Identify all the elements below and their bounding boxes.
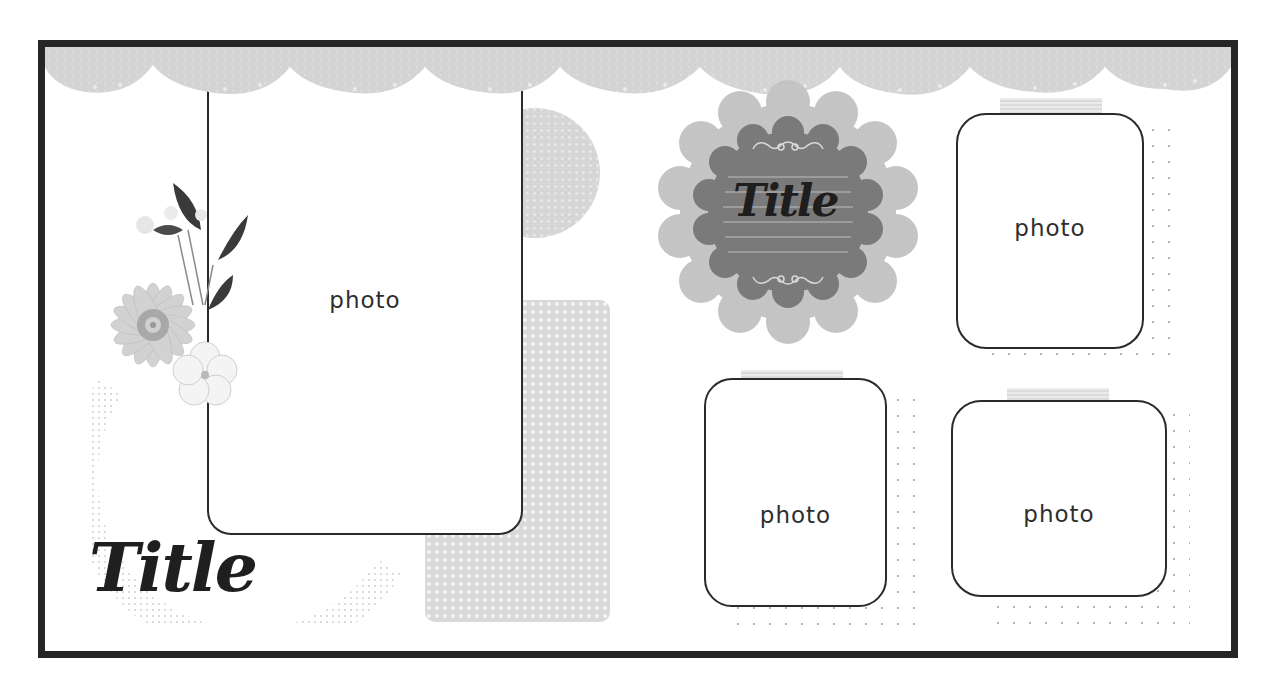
photo-label: photo — [760, 502, 831, 528]
photo-frame-bottom-right[interactable]: photo — [951, 400, 1167, 597]
photo-frame-top-right[interactable]: photo — [956, 113, 1144, 349]
photo-frame-large-left[interactable]: photo — [207, 67, 523, 535]
photo-frame-bottom-middle[interactable]: photo — [704, 378, 887, 607]
corner-title[interactable]: Title — [89, 527, 256, 607]
photo-label: photo — [1014, 215, 1085, 241]
photo-label: photo — [329, 287, 400, 313]
photo-label: photo — [1023, 501, 1094, 527]
badge-title[interactable]: Title — [733, 175, 838, 226]
lace-circle — [510, 106, 610, 241]
watercolor-flower-icon — [83, 175, 253, 420]
scrapbook-page: photo — [38, 40, 1238, 658]
